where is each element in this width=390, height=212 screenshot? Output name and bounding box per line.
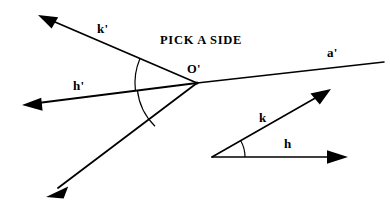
angle-arc-h-to-k [241, 141, 245, 158]
figure-title: PICK A SIDE [160, 34, 242, 47]
ray-k-prime-arrowhead [38, 15, 58, 29]
ray-h-arrowhead [327, 150, 348, 164]
label-vertex-O-prime: O' [187, 63, 201, 76]
geometry-figure: PICK A SIDE O' k' h' a' k h [0, 0, 390, 212]
ray-h-prime-arrowhead [22, 98, 43, 111]
ray-lower-left-arrowhead [46, 186, 68, 198]
label-ray-h: h [284, 137, 291, 150]
label-ray-k: k [259, 111, 266, 124]
ray-k-prime-line [48, 19, 197, 83]
ray-k-arrowhead [310, 89, 331, 104]
label-ray-a-prime: a' [327, 46, 338, 59]
figure-canvas [0, 0, 390, 212]
ray-k-line [212, 97, 318, 158]
right-diagram-group [212, 89, 348, 164]
ray-a-prime-line [197, 62, 384, 83]
label-ray-h-prime: h' [73, 79, 84, 92]
vertex-O-prime-dot [195, 81, 198, 84]
angle-arc-k-prime-to-h-prime [135, 59, 140, 91]
label-ray-k-prime: k' [97, 22, 108, 35]
